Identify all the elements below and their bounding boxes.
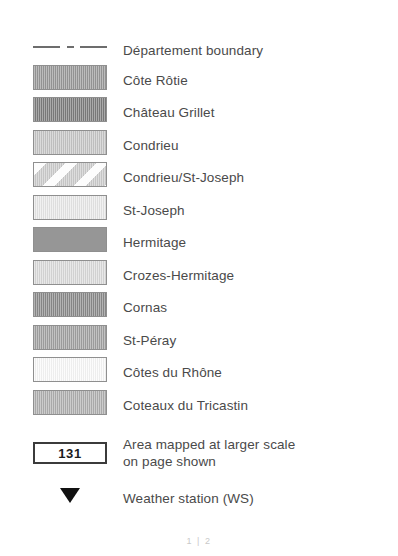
legend-row: St-Joseph xyxy=(0,194,398,226)
color-swatch-icon xyxy=(33,325,107,350)
color-swatch-icon xyxy=(33,130,107,155)
legend-item-label: Côte Rôtie xyxy=(123,72,388,89)
legend-item-label: Condrieu xyxy=(123,137,388,154)
symbol-cell xyxy=(33,64,107,90)
color-swatch-icon xyxy=(33,390,107,415)
legend-row: Condrieu xyxy=(0,129,398,161)
legend-item-label: Crozes-Hermitage xyxy=(123,267,388,284)
footer-page-marker: 1 | 2 xyxy=(0,536,398,546)
symbol-cell xyxy=(33,324,107,350)
legend-item-label: Coteaux du Tricastin xyxy=(123,397,388,414)
legend-item-label: Cornas xyxy=(123,299,388,316)
legend-row: Crozes-Hermitage xyxy=(0,259,398,291)
color-swatch-icon xyxy=(33,292,107,317)
dash-dot-line-icon xyxy=(33,46,107,49)
symbol-cell: 131 xyxy=(33,442,107,464)
legend-row: Coteaux du Tricastin xyxy=(0,389,398,421)
legend-item-label: Condrieu/St-Joseph xyxy=(123,169,388,186)
triangle-down-icon xyxy=(33,488,107,503)
legend-row: Département boundary xyxy=(0,34,398,66)
color-swatch-icon xyxy=(33,97,107,122)
legend-row: Cornas xyxy=(0,291,398,323)
symbol-cell xyxy=(33,34,107,60)
symbol-cell xyxy=(33,259,107,285)
legend-row: Château Grillet xyxy=(0,96,398,128)
color-swatch-icon xyxy=(33,195,107,220)
legend-row: Côtes du Rhône xyxy=(0,356,398,388)
page-reference-box: 131 xyxy=(33,442,107,464)
symbol-cell xyxy=(33,129,107,155)
legend-item-label: St-Péray xyxy=(123,332,388,349)
symbol-cell xyxy=(33,356,107,382)
page-reference-number: 131 xyxy=(58,446,82,461)
legend-row: Weather station (WS) xyxy=(0,482,398,514)
symbol-cell xyxy=(33,161,107,187)
legend-row: Côte Rôtie xyxy=(0,64,398,96)
color-swatch-icon xyxy=(33,227,107,252)
legend-item-label: Hermitage xyxy=(123,234,388,251)
symbol-cell xyxy=(33,291,107,317)
color-swatch-icon xyxy=(33,162,107,187)
legend-item-label: Château Grillet xyxy=(123,104,388,121)
symbol-cell xyxy=(33,96,107,122)
color-swatch-icon xyxy=(33,65,107,90)
legend-row: Condrieu/St-Joseph xyxy=(0,161,398,193)
symbol-cell xyxy=(33,389,107,415)
color-swatch-icon xyxy=(33,357,107,382)
legend-item-label: Département boundary xyxy=(123,42,388,59)
map-legend: Département boundary Côte Rôtie Château … xyxy=(0,0,398,556)
legend-row: 131 Area mapped at larger scale on page … xyxy=(0,434,398,474)
legend-item-label: Weather station (WS) xyxy=(123,490,388,507)
legend-row: Hermitage xyxy=(0,226,398,258)
legend-item-label: Côtes du Rhône xyxy=(123,364,388,381)
legend-item-label: Area mapped at larger scale on page show… xyxy=(123,436,388,470)
legend-item-label: St-Joseph xyxy=(123,202,388,219)
legend-row: St-Péray xyxy=(0,324,398,356)
color-swatch-icon xyxy=(33,260,107,285)
symbol-cell xyxy=(33,194,107,220)
symbol-cell xyxy=(33,226,107,252)
symbol-cell xyxy=(33,482,107,508)
